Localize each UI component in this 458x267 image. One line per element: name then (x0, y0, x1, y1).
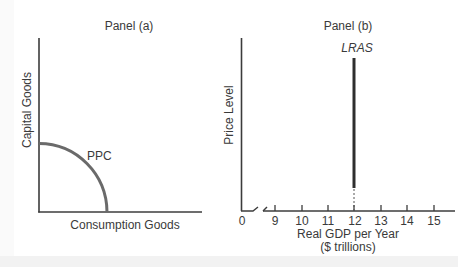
figure: Panel (a) Capital Goods Consumption Good… (0, 0, 458, 267)
x-tick-labels: 0 9 10 11 12 13 14 15 (239, 214, 441, 228)
tick-label: 9 (272, 214, 279, 228)
tick-label: 14 (400, 214, 414, 228)
panel-a-x-label: Consumption Goods (70, 218, 179, 232)
panel-a: Panel (a) Capital Goods Consumption Good… (20, 19, 202, 232)
panel-a-title: Panel (a) (105, 19, 154, 33)
panel-b-y-label: Price Level (222, 85, 236, 144)
panel-a-y-label: Capital Goods (20, 72, 34, 148)
tick-label: 0 (239, 214, 246, 228)
tick-label: 10 (295, 214, 309, 228)
lras-label: LRAS (341, 41, 372, 55)
panel-b-title: Panel (b) (324, 19, 373, 33)
panel-b-x-axis-start (241, 207, 258, 211)
tick-label: 11 (322, 214, 335, 228)
panel-b-x-units: ($ trillions) (320, 240, 375, 254)
panel-b: Panel (b) 0 9 10 11 (222, 19, 455, 254)
panel-b-x-label: Real GDP per Year (297, 227, 399, 241)
chart-svg: Panel (a) Capital Goods Consumption Good… (0, 0, 458, 267)
ppc-label: PPC (87, 149, 112, 163)
tick-label: 12 (348, 214, 362, 228)
tick-label: 15 (427, 214, 441, 228)
tick-label: 13 (374, 214, 388, 228)
